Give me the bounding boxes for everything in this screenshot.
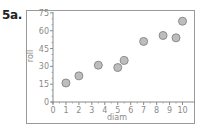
x-axis-title: diam [107,113,127,122]
x-tick-label: 1 [63,106,68,115]
data-point-marker [114,64,122,72]
scatter-plot: 01530456075012345678910 diam roll [0,0,202,129]
y-tick-label: 60 [39,27,49,36]
x-tick-label: 3 [89,106,94,115]
data-points [62,17,187,87]
data-point-marker [159,31,167,39]
data-point-marker [140,37,148,45]
y-tick-label: 45 [39,45,49,54]
data-point-marker [172,34,180,42]
data-point-marker [94,61,102,69]
y-tick-label: 75 [39,9,49,18]
y-tick-label: 15 [39,80,49,89]
x-tick-label: 2 [76,106,81,115]
x-tick-label: 7 [141,106,146,115]
data-point-marker [120,56,128,64]
x-tick-label: 8 [154,106,159,115]
y-axis-title: roll [26,50,35,62]
x-tick-label: 9 [167,106,172,115]
axes: 01530456075012345678910 [39,9,195,115]
y-tick-label: 0 [44,98,49,107]
data-point-marker [179,17,187,25]
x-tick-label: 10 [177,106,187,115]
x-tick-label: 0 [50,106,55,115]
data-point-marker [75,72,83,80]
x-tick-label: 6 [128,106,133,115]
data-point-marker [62,79,70,87]
y-tick-label: 30 [39,62,49,71]
